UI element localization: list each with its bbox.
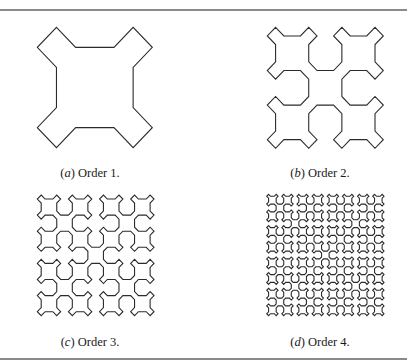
sierpinski-curve-order-4: [267, 194, 384, 315]
caption-a: (a) Order 1.: [10, 166, 170, 180]
subfigure-label: b: [294, 166, 300, 180]
caption-text: Order 1.: [78, 166, 120, 180]
caption-d: (d) Order 4.: [240, 335, 400, 349]
sierpinski-curve-order-1: [37, 27, 152, 147]
caption-b: (b) Order 2.: [240, 166, 400, 180]
figure-canvas: [0, 0, 407, 363]
caption-text: Order 2.: [308, 166, 350, 180]
caption-text: Order 4.: [308, 335, 350, 349]
subfigure-label: c: [65, 335, 71, 349]
caption-c: (c) Order 3.: [10, 335, 170, 349]
subfigure-label: a: [64, 166, 70, 180]
sierpinski-curve-order-2: [267, 27, 383, 148]
sierpinski-curve-order-3: [37, 195, 154, 316]
subfigure-label: d: [294, 335, 300, 349]
caption-text: Order 3.: [78, 335, 120, 349]
